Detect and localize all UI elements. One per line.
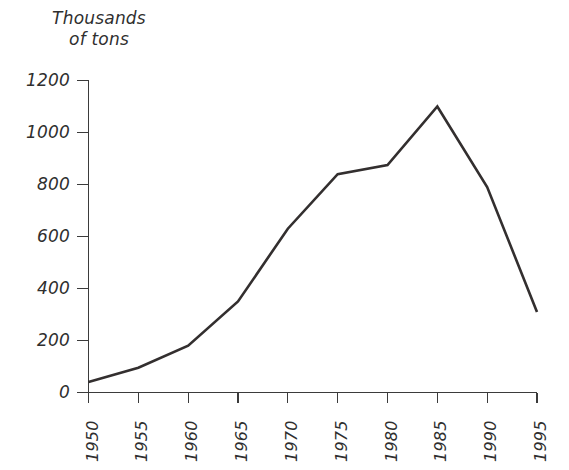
x-axis-tick-label: 1995 bbox=[531, 420, 550, 462]
chart-container: Thousands of tons bbox=[0, 0, 569, 470]
x-axis-tick-label: 1990 bbox=[481, 420, 500, 462]
y-axis-tick-label: 0 bbox=[12, 382, 70, 402]
y-axis-tick-label: 1200 bbox=[12, 70, 70, 90]
x-axis-tick-label: 1955 bbox=[132, 420, 151, 462]
plot-area bbox=[0, 0, 569, 470]
x-axis-tick-label: 1970 bbox=[282, 420, 301, 462]
y-axis-tick-label: 800 bbox=[12, 174, 70, 194]
y-axis-tick-label: 1000 bbox=[12, 122, 70, 142]
data-series-line bbox=[89, 107, 538, 383]
y-axis-tick-label: 200 bbox=[12, 330, 70, 350]
x-axis-tick-label: 1980 bbox=[382, 420, 401, 462]
x-axis-tick-label: 1960 bbox=[182, 420, 201, 462]
x-tick-marks bbox=[89, 393, 538, 404]
y-axis-tick-label: 600 bbox=[12, 226, 70, 246]
x-axis-tick-label: 1965 bbox=[232, 420, 251, 462]
x-axis-tick-label: 1975 bbox=[332, 420, 351, 462]
x-axis-tick-label: 1950 bbox=[83, 420, 102, 462]
x-axis-tick-label: 1985 bbox=[431, 420, 450, 462]
y-axis-tick-label: 400 bbox=[12, 278, 70, 298]
y-tick-marks bbox=[77, 81, 89, 393]
